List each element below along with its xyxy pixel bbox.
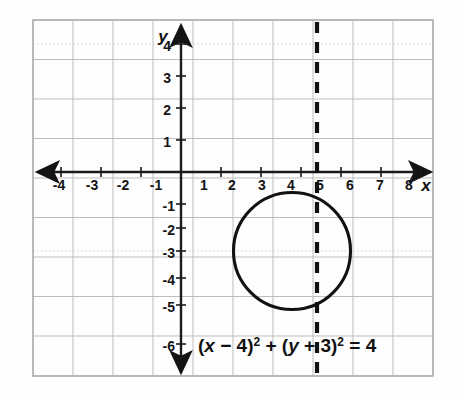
y-tick-label-1: 1 xyxy=(163,134,171,150)
eq-four: 4 xyxy=(237,335,248,356)
y-tick-label-2: 2 xyxy=(163,102,171,118)
eq-three: 3 xyxy=(320,335,331,356)
y-tick-label--1: -1 xyxy=(163,198,176,214)
eq-minus: − xyxy=(215,335,237,356)
circle-equation-label: (x − 4)2 + (y + 3)2 = 4 xyxy=(198,335,377,356)
eq-equals: = xyxy=(344,335,366,356)
x-tick-label--1: -1 xyxy=(150,177,163,193)
coordinate-graph: -4 -3 -2 -1 1 2 3 4 5 6 7 8 4 3 2 1 -1 -… xyxy=(0,0,463,398)
math-figure: -4 -3 -2 -1 1 2 3 4 5 6 7 8 4 3 2 1 -1 -… xyxy=(0,0,463,398)
eq-result: 4 xyxy=(366,335,377,356)
x-tick-label-3: 3 xyxy=(258,177,266,193)
x-tick-label--4: -4 xyxy=(53,177,66,193)
y-tick-label--4: -4 xyxy=(163,272,176,288)
y-tick-label-3: 3 xyxy=(163,70,171,86)
y-tick-label--3: -3 xyxy=(163,245,176,261)
eq-plus-inner: + xyxy=(299,335,321,356)
eq-plus: + xyxy=(260,335,282,356)
x-tick-label-8: 8 xyxy=(405,177,413,193)
y-tick-label--6: -6 xyxy=(163,338,176,354)
x-tick-label-6: 6 xyxy=(346,177,354,193)
x-tick-label-7: 7 xyxy=(376,177,384,193)
y-tick-label--2: -2 xyxy=(163,222,176,238)
x-axis-label: x xyxy=(420,176,432,195)
y-tick-label--5: -5 xyxy=(163,299,176,315)
x-tick-label-2: 2 xyxy=(228,177,236,193)
y-axis-label: y xyxy=(157,27,169,46)
x-tick-label--2: -2 xyxy=(117,177,130,193)
x-tick-label-4: 4 xyxy=(287,177,295,193)
x-tick-label-1: 1 xyxy=(200,177,208,193)
x-tick-label--3: -3 xyxy=(86,177,99,193)
